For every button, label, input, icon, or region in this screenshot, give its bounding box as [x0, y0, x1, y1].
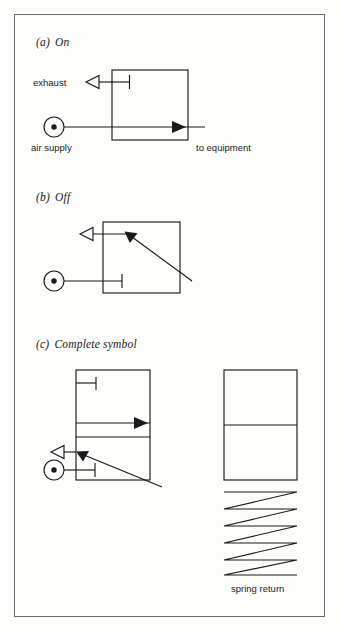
figure-frame [14, 14, 325, 617]
figure-page: (a)On exhaust air supply to equipment (b… [0, 0, 340, 631]
section-label-a: (a)On [36, 36, 69, 48]
section-label-b: (b)Off [36, 191, 70, 203]
label-to-equipment-a: to equipment [196, 142, 251, 153]
label-spring-return: spring return [231, 583, 284, 594]
section-tag-a: (a) [36, 36, 50, 48]
label-air-supply-a: air supply [31, 142, 72, 153]
section-title-b: Off [55, 191, 70, 203]
section-title-a: On [55, 36, 69, 48]
label-exhaust-a: exhaust [33, 77, 66, 88]
section-label-c: (c)Complete symbol [36, 338, 137, 350]
section-tag-b: (b) [36, 191, 50, 203]
section-title-c: Complete symbol [54, 338, 137, 350]
section-tag-c: (c) [36, 338, 49, 350]
